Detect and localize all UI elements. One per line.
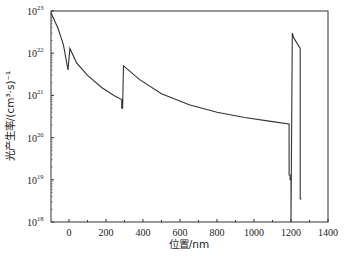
data-series-line xyxy=(51,13,302,222)
x-tick-label: 800 xyxy=(209,227,224,238)
chart: 0200400600800100012001400 10181019102010… xyxy=(0,0,345,258)
x-tick-label: 1000 xyxy=(244,227,264,238)
y-tick-label: 1023 xyxy=(27,4,44,17)
y-axis-title: 光产生率/(cm³·s)⁻¹ xyxy=(4,71,16,162)
y-tick-label: 1022 xyxy=(27,46,44,59)
y-tick-label: 1020 xyxy=(27,131,44,144)
x-tick-label: 600 xyxy=(172,227,187,238)
x-tick-label: 0 xyxy=(66,227,71,238)
y-tick-label: 1019 xyxy=(27,173,44,186)
plot-frame xyxy=(51,11,328,222)
x-tick-label: 1400 xyxy=(318,227,338,238)
x-tick-label: 400 xyxy=(135,227,150,238)
y-tick-label: 1021 xyxy=(27,88,44,101)
x-tick-label: 1200 xyxy=(281,227,301,238)
y-tick-label: 1018 xyxy=(27,215,44,228)
x-tick-label: 200 xyxy=(98,227,113,238)
y-axis-ticks: 101810191020102110221023 xyxy=(27,4,54,228)
x-axis-title: 位置/nm xyxy=(169,238,209,250)
